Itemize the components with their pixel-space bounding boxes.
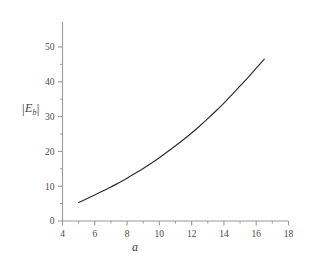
x-axis-tick-label: 8 — [125, 229, 130, 239]
y-axis-label-symbol: E — [25, 101, 33, 115]
x-axis-tick-label: 16 — [251, 229, 261, 239]
y-axis-tick-label: 20 — [45, 147, 55, 157]
x-axis-tick-label: 10 — [155, 229, 165, 239]
x-axis-tick-label: 18 — [284, 229, 294, 239]
data-series-group — [79, 59, 265, 202]
x-axis-label: a — [0, 240, 312, 255]
x-axis-label-text: a — [132, 240, 138, 254]
y-axis-tick-label: 10 — [45, 182, 55, 192]
axes-group — [63, 22, 289, 221]
tick-marks-group — [58, 47, 289, 226]
data-curve — [79, 59, 265, 202]
x-axis-tick-label: 4 — [60, 229, 65, 239]
plot-area: 468101214161801020304050 — [0, 0, 312, 263]
x-axis-tick-label: 12 — [187, 229, 197, 239]
y-axis-tick-label: 0 — [50, 216, 55, 226]
y-axis-label: |Eb| — [22, 101, 40, 117]
chart-figure: 468101214161801020304050 |Eb| a — [0, 0, 312, 263]
y-axis-tick-label: 40 — [45, 77, 55, 87]
y-axis-label-close-bar: | — [37, 101, 40, 116]
y-axis-tick-label: 50 — [45, 42, 55, 52]
y-axis-tick-label: 30 — [45, 112, 55, 122]
tick-labels-group: 468101214161801020304050 — [45, 42, 294, 239]
x-axis-tick-label: 14 — [219, 229, 229, 239]
x-axis-tick-label: 6 — [92, 229, 97, 239]
